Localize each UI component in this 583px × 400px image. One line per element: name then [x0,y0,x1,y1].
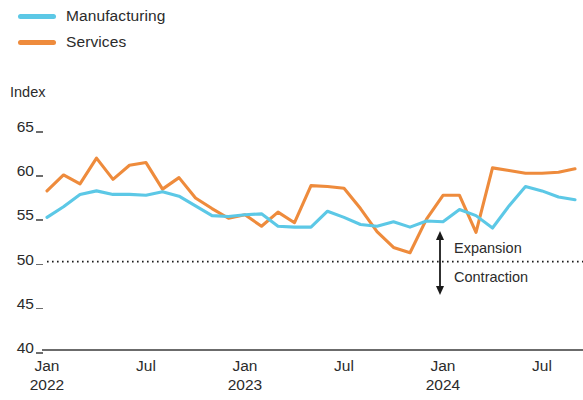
plot-area [0,0,583,400]
series-line-services [47,158,575,253]
series-line-manufacturing [47,186,575,228]
x-tick-year: 2024 [413,375,473,394]
x-tick-label-jan-2022: Jan2022 [17,356,77,394]
x-tick-month: Jan [413,356,473,375]
x-tick-label-jan-2023: Jan2023 [215,356,275,394]
annotation-expansion: Expansion [454,240,522,256]
x-tick-month: Jan [17,356,77,375]
x-tick-month: Jan [215,356,275,375]
annotation-contraction: Contraction [454,269,528,285]
x-tick-year: 2022 [17,375,77,394]
x-tick-month: Jul [512,356,572,375]
x-tick-label-jul: Jul [314,356,374,375]
x-tick-month: Jul [116,356,176,375]
contraction-arrow-icon [436,286,444,295]
pmi-index-line-chart: Manufacturing Services Index 65605550454… [0,0,583,400]
x-tick-label-jan-2024: Jan2024 [413,356,473,394]
x-tick-month: Jul [314,356,374,375]
x-tick-label-jul: Jul [512,356,572,375]
x-tick-label-jul: Jul [116,356,176,375]
x-tick-year: 2023 [215,375,275,394]
